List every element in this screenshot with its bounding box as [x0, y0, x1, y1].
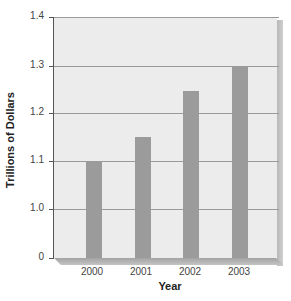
y-tick [49, 161, 54, 162]
y-tick [49, 209, 54, 210]
bar-2003 [232, 66, 248, 258]
x-tick-label: 2002 [170, 266, 210, 277]
y-axis [53, 17, 54, 259]
y-tick [49, 258, 54, 259]
y-tick-label: 1.0 [0, 202, 44, 213]
y-tick [49, 66, 54, 67]
x-tick-label: 2001 [121, 266, 161, 277]
bar-2001 [135, 137, 151, 258]
y-tick-label: 0 [0, 251, 44, 262]
y-axis-title: Trillions of Dollars [4, 92, 16, 188]
plot-3d-floor [54, 258, 283, 265]
y-tick [49, 17, 54, 18]
x-axis-title: Year [140, 280, 200, 292]
bar-2000 [86, 161, 102, 258]
x-tick-label: 2003 [219, 266, 259, 277]
y-tick-label: 1.3 [0, 59, 44, 70]
plot-3d-side [277, 20, 283, 266]
y-tick [49, 113, 54, 114]
x-tick-label: 2000 [72, 266, 112, 277]
gridline-1-4 [54, 17, 279, 18]
y-tick-label: 1.4 [0, 10, 44, 21]
bar-2002 [183, 91, 199, 258]
